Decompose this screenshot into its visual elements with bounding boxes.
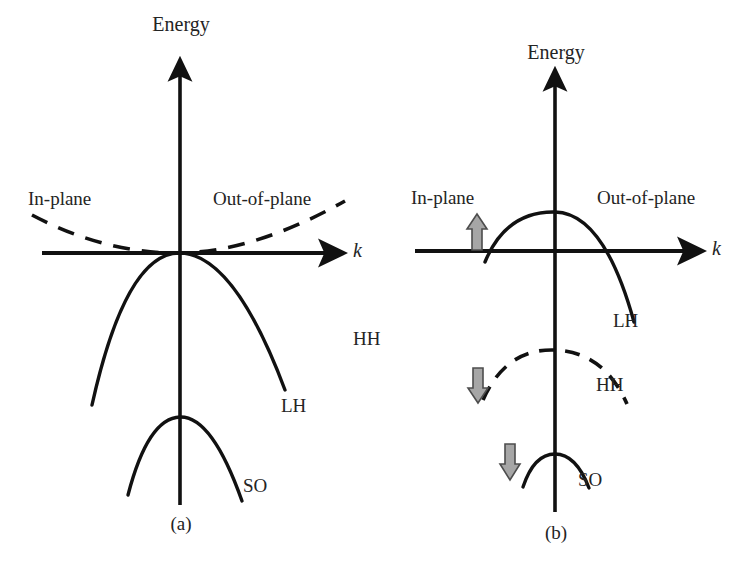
panel-b-so-label: SO	[578, 470, 602, 489]
panel-a-out-of-plane-label: Out-of-plane	[213, 189, 311, 208]
panel-a	[32, 62, 345, 505]
panel-a-lh-band-curve	[92, 253, 285, 405]
panel-b-lh-band-curve	[485, 212, 634, 322]
panel-b-hh-label: HH	[596, 375, 623, 394]
panel-a-lh-label: LH	[281, 396, 306, 415]
panel-a-so-band-curve	[128, 417, 242, 501]
panel-a-in-plane-label: In-plane	[28, 189, 91, 208]
figure-root: Energy k In-plane Out-of-plane HH LH SO …	[0, 0, 745, 565]
panel-b-lh-label: LH	[613, 311, 638, 330]
panel-b-in-plane-label: In-plane	[411, 188, 474, 207]
panel-a-caption: (a)	[170, 514, 191, 533]
panel-a-energy-axis-label: Energy	[152, 14, 209, 34]
band-structure-diagram	[0, 0, 745, 565]
lh-shift-up-arrow	[467, 214, 487, 250]
panel-b-energy-axis-label: Energy	[527, 42, 584, 62]
panel-b	[415, 72, 700, 512]
panel-a-hh-label: HH	[353, 329, 380, 348]
panel-b-k-axis-label: k	[712, 238, 721, 258]
so-shift-down-arrow	[500, 444, 520, 480]
panel-b-caption: (b)	[545, 523, 567, 542]
panel-a-so-label: SO	[243, 476, 267, 495]
panel-b-out-of-plane-label: Out-of-plane	[597, 188, 695, 207]
panel-a-k-axis-label: k	[353, 240, 362, 260]
